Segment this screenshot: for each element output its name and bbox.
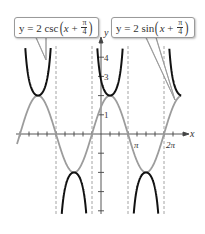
csc-frac-den: 4 xyxy=(82,28,86,36)
sin-frac-den: 4 xyxy=(178,28,182,36)
csc-equation-callout: y = 2 csc ( x + π 4 ) xyxy=(14,17,99,38)
close-paren: ) xyxy=(89,21,93,35)
y-tick-label-4: 4 xyxy=(104,53,109,63)
sin-fraction: π 4 xyxy=(177,19,183,36)
open-paren: ( xyxy=(155,21,159,35)
close-paren: ) xyxy=(185,21,189,35)
csc-prefix: y = 2 csc xyxy=(19,22,59,34)
asymptote-lines xyxy=(56,46,164,214)
x-tick-label-2pi: 2π xyxy=(166,140,176,150)
csc-plus: + xyxy=(69,22,81,34)
y-tick-label-3: 3 xyxy=(104,72,109,82)
x-tick-label-pi: π xyxy=(134,140,139,150)
x-axis-label: x xyxy=(189,128,195,139)
y-tick-label-1: 1 xyxy=(104,110,109,120)
sin-equation-callout: y = 2 sin ( x + π 4 ) xyxy=(111,17,195,38)
sin-prefix: y = 2 sin xyxy=(116,22,154,34)
open-paren: ( xyxy=(59,21,63,35)
sin-plus: + xyxy=(165,22,177,34)
csc-fraction: π 4 xyxy=(81,19,87,36)
y-axis-label: y xyxy=(103,27,109,38)
